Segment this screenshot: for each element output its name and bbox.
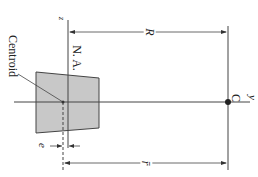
r-label: R bbox=[144, 28, 156, 35]
e-arrow-left-head bbox=[57, 144, 62, 148]
rbar-arrow-right bbox=[221, 161, 227, 165]
rbar-label: r̄ bbox=[140, 161, 152, 166]
y-axis-label: y bbox=[247, 95, 258, 100]
z-axis-label: z bbox=[57, 17, 66, 21]
neutral-axis-label: N. A. bbox=[71, 45, 83, 71]
r-arrow-left bbox=[69, 30, 75, 34]
center-point-label: C bbox=[230, 94, 242, 102]
rbar-arrow-left bbox=[64, 161, 70, 165]
curved-beam-diagram bbox=[0, 0, 258, 177]
centroid-label: Centroid bbox=[7, 35, 19, 77]
e-arrow-right-head bbox=[69, 144, 74, 148]
e-label: e bbox=[37, 143, 48, 148]
r-arrow-right bbox=[221, 30, 227, 34]
centroid-dot bbox=[62, 101, 65, 104]
